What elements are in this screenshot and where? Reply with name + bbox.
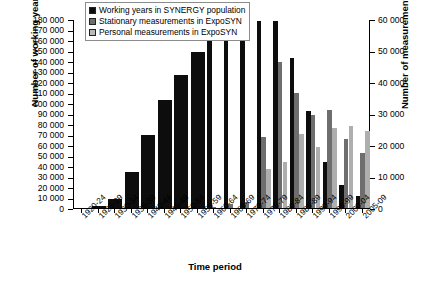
y-tick-right: [370, 115, 375, 116]
y-tick-label-left: 140 000: [4, 58, 64, 67]
bar-group: [240, 19, 254, 208]
y-tick-label-left: 160 000: [4, 37, 64, 46]
bar-group: [290, 19, 304, 208]
x-axis-title: Time period: [0, 261, 430, 272]
bar-group: [339, 19, 353, 208]
y-tick-label-left: 70 000: [4, 131, 64, 140]
y-tick-label-left: 90 000: [4, 110, 64, 119]
bar-group: [141, 19, 155, 208]
legend-label: Working years in SYNERGY population: [99, 6, 245, 15]
y-tick-label-left: 20 000: [4, 184, 64, 193]
y-tick-label-right: 30 000: [378, 110, 430, 119]
y-tick-label-left: 80 000: [4, 121, 64, 130]
bar-group: [174, 19, 188, 208]
legend-label: Personal measurements in ExpoSYN: [99, 28, 237, 37]
y-tick-label-right: 50 000: [378, 47, 430, 56]
chart-figure: Number of working years Number of measur…: [0, 0, 430, 283]
y-tick-left: [68, 209, 73, 210]
legend-label: Stationary measurements in ExpoSYN: [99, 17, 242, 26]
bar-group: [356, 19, 370, 208]
y-tick-right: [370, 83, 375, 84]
y-tick-label-right: 10 000: [378, 173, 430, 182]
bar-group: [75, 19, 89, 208]
y-tick-label-left: 130 000: [4, 68, 64, 77]
plot-area: [73, 20, 370, 209]
y-tick-label-right: 60 000: [378, 16, 430, 25]
legend-swatch-icon: [89, 29, 96, 36]
bar-group: [191, 19, 205, 208]
legend-item: Personal measurements in ExpoSYN: [89, 27, 245, 38]
bar-group: [207, 19, 221, 208]
y-tick-label-left: 60 000: [4, 142, 64, 151]
bar-group: [323, 19, 337, 208]
y-tick-label-right: 20 000: [378, 142, 430, 151]
bar-group: [224, 19, 238, 208]
y-tick-right: [370, 52, 375, 53]
y-tick-label-left: 100 000: [4, 100, 64, 109]
y-tick-label-left: 0: [4, 205, 64, 214]
y-tick-label-left: 40 000: [4, 163, 64, 172]
y-tick-label-left: 110 000: [4, 89, 64, 98]
y-tick-label-right: 0: [378, 205, 430, 214]
y-tick-right: [370, 20, 375, 21]
bar: [191, 52, 205, 208]
legend-swatch-icon: [89, 7, 96, 14]
y-tick-label-left: 150 000: [4, 47, 64, 56]
bar-group: [257, 19, 271, 208]
legend-swatch-icon: [89, 18, 96, 25]
chart-legend: Working years in SYNERGY populationStati…: [85, 2, 250, 41]
bar-group: [125, 19, 139, 208]
bar-group: [273, 19, 287, 208]
bar: [240, 36, 244, 208]
bar-group: [108, 19, 122, 208]
y-tick-label-right: 40 000: [378, 79, 430, 88]
y-tick-label-left: 10 000: [4, 194, 64, 203]
bar: [207, 41, 211, 208]
y-tick-right: [370, 178, 375, 179]
y-tick-right: [370, 146, 375, 147]
legend-item: Stationary measurements in ExpoSYN: [89, 16, 245, 27]
bar-group: [158, 19, 172, 208]
y-tick-label-left: 50 000: [4, 152, 64, 161]
legend-item: Working years in SYNERGY population: [89, 5, 245, 16]
bar: [158, 100, 172, 208]
bar: [174, 75, 188, 208]
bar-group: [92, 19, 106, 208]
bar: [224, 32, 228, 208]
bar-group: [306, 19, 320, 208]
y-tick-label-left: 30 000: [4, 173, 64, 182]
y-tick-label-left: 180 000: [4, 16, 64, 25]
y-tick-label-left: 170 000: [4, 26, 64, 35]
y-tick-label-left: 120 000: [4, 79, 64, 88]
